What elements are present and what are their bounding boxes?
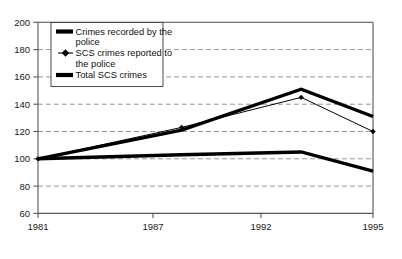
y-axis-label-80: 80 [19, 181, 30, 192]
line-chart: 200 180 160 140 120 100 80 60 1981 1987 … [0, 0, 402, 259]
x-tick-marks [38, 213, 373, 218]
y-axis-label-140: 140 [14, 99, 30, 110]
data-point-marker-diamond-icon [371, 129, 376, 134]
x-axis-label-1992: 1992 [250, 221, 271, 232]
x-axis-labels: 1981 1987 1992 1995 [27, 221, 383, 232]
y-axis-label-60: 60 [19, 208, 30, 219]
y-axis-label-180: 180 [14, 44, 30, 55]
y-tick-marks [34, 22, 39, 213]
x-axis-label-1981: 1981 [27, 221, 48, 232]
y-axis-label-120: 120 [14, 126, 30, 137]
series-markers-scs-crimes-reported-to-the-police [36, 95, 376, 161]
series-group [36, 89, 376, 171]
chart-canvas: 200 180 160 140 120 100 80 60 1981 1987 … [0, 0, 402, 259]
legend-label-scs-crimes-reported-to-the-police-line2: the police [76, 59, 116, 69]
x-axis-label-1995: 1995 [362, 221, 383, 232]
y-axis-label-160: 160 [14, 71, 30, 82]
series-line-crimes-recorded-by-the-police [38, 89, 373, 159]
y-axis-label-100: 100 [14, 153, 30, 164]
legend-label-crimes-recorded-by-the-police-line2: police [76, 37, 100, 47]
y-axis-label-200: 200 [14, 17, 30, 28]
y-axis-labels: 200 180 160 140 120 100 80 60 [14, 17, 30, 219]
legend-label-scs-crimes-reported-to-the-police-line1: SCS crimes reported to [76, 48, 173, 58]
legend: Crimes recorded by the police SCS crimes… [51, 23, 172, 87]
data-point-marker-diamond-icon [299, 95, 304, 100]
x-axis-label-1987: 1987 [142, 221, 163, 232]
legend-label-crimes-recorded-by-the-police-line1: Crimes recorded by the [76, 27, 173, 37]
legend-label-total-scs-crimes: Total SCS crimes [76, 70, 148, 80]
series-line-total-scs-crimes [38, 152, 373, 171]
